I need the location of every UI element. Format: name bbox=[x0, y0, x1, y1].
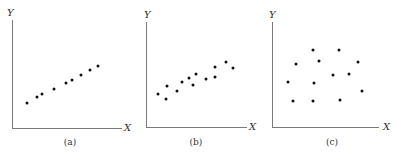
data-point bbox=[53, 88, 56, 91]
x-axis-b bbox=[146, 127, 247, 128]
data-point bbox=[318, 60, 321, 63]
data-point bbox=[332, 74, 335, 77]
data-point bbox=[97, 65, 100, 68]
y-axis-c bbox=[272, 22, 273, 127]
data-point bbox=[26, 102, 29, 105]
x-axis-c bbox=[272, 127, 379, 128]
data-point bbox=[232, 67, 235, 70]
data-point bbox=[188, 77, 191, 80]
panel-caption-b: (b) bbox=[190, 137, 203, 147]
data-point bbox=[225, 61, 228, 64]
data-point bbox=[338, 49, 341, 52]
data-point bbox=[287, 81, 290, 84]
data-point bbox=[195, 73, 198, 76]
data-point bbox=[312, 49, 315, 52]
y-axis-label-a: Y bbox=[7, 8, 14, 18]
x-axis-label-c: X bbox=[383, 122, 390, 132]
data-point bbox=[357, 61, 360, 64]
x-axis-label-b: X bbox=[249, 122, 256, 132]
data-point bbox=[192, 84, 195, 87]
y-axis-label-c: Y bbox=[269, 10, 276, 20]
data-point bbox=[176, 90, 179, 93]
data-point bbox=[205, 78, 208, 81]
data-point bbox=[361, 90, 364, 93]
data-point bbox=[181, 81, 184, 84]
data-point bbox=[348, 73, 351, 76]
x-axis-a bbox=[12, 128, 122, 129]
data-point bbox=[165, 98, 168, 101]
y-axis-label-b: Y bbox=[144, 10, 151, 20]
data-point bbox=[80, 74, 83, 77]
data-point bbox=[313, 82, 316, 85]
data-point bbox=[157, 93, 160, 96]
panel-caption-c: (c) bbox=[326, 137, 338, 147]
x-axis-label-a: X bbox=[124, 123, 131, 133]
panel-caption-a: (a) bbox=[64, 137, 76, 147]
data-point bbox=[312, 100, 315, 103]
data-point bbox=[339, 99, 342, 102]
data-point bbox=[65, 82, 68, 85]
data-point bbox=[41, 93, 44, 96]
data-point bbox=[89, 69, 92, 72]
data-point bbox=[214, 66, 217, 69]
data-point bbox=[295, 63, 298, 66]
data-point bbox=[292, 100, 295, 103]
data-point bbox=[36, 96, 39, 99]
y-axis-b bbox=[146, 22, 147, 127]
data-point bbox=[214, 76, 217, 79]
data-point bbox=[166, 85, 169, 88]
y-axis-a bbox=[12, 20, 13, 128]
data-point bbox=[71, 79, 74, 82]
